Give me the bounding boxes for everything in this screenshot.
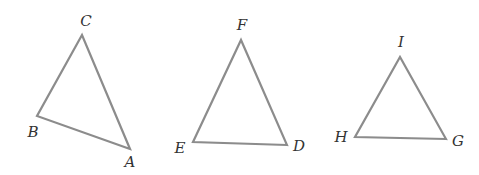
vertex-label-b: B xyxy=(26,123,38,141)
vertex-label-e: E xyxy=(174,139,186,157)
vertex-label-g: G xyxy=(452,132,464,150)
triangle-ghi-shape xyxy=(355,57,446,139)
triangles-diagram: A B C D E F G H I xyxy=(0,0,479,175)
vertex-label-d: D xyxy=(292,137,305,155)
vertex-label-a: A xyxy=(123,153,136,171)
vertex-label-f: F xyxy=(236,16,248,34)
triangle-def: D E F xyxy=(174,16,305,157)
triangle-abc-shape xyxy=(37,35,130,149)
vertex-label-h: H xyxy=(333,128,348,146)
vertex-label-c: C xyxy=(80,12,92,30)
vertex-label-i: I xyxy=(397,33,405,51)
triangle-ghi: G H I xyxy=(333,33,464,150)
triangle-abc: A B C xyxy=(26,12,135,171)
triangle-def-shape xyxy=(193,40,287,145)
